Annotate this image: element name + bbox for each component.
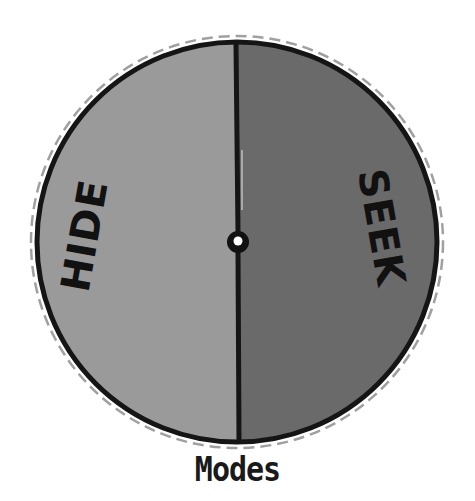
wheel-graphic: HIDE SEEK [0, 0, 475, 460]
hub-hole [234, 237, 243, 246]
caption: Modes [0, 450, 475, 489]
spinner-wheel: HIDE SEEK [0, 0, 475, 460]
